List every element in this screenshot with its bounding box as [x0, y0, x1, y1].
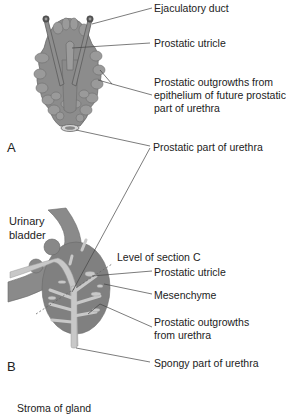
panel-label-b: B	[7, 359, 16, 374]
label-spongy-part-urethra: Spongy part of urethra	[154, 357, 258, 370]
label-urinary-bladder-1: Urinary	[9, 215, 44, 228]
panel-label-a: A	[7, 140, 16, 155]
label-prostatic-utricle-b: Prostatic utricle	[154, 266, 226, 279]
prostate-gland-illustration	[34, 16, 105, 132]
label-outgrowths-b-2: from urethra	[154, 329, 211, 342]
label-outgrowths-a-1: Prostatic outgrowths from	[154, 76, 273, 89]
label-outgrowths-a-3: part of urethra	[154, 102, 220, 115]
label-level-section-c: Level of section C	[117, 251, 200, 264]
label-outgrowths-a-2: epithelium of future prostatic	[154, 89, 286, 102]
label-prostatic-utricle-a: Prostatic utricle	[154, 37, 226, 50]
label-mesenchyme: Mesenchyme	[154, 289, 216, 302]
label-stroma-of-gland: Stroma of gland	[17, 402, 91, 415]
label-outgrowths-b-1: Prostatic outgrowths	[154, 316, 249, 329]
label-ejaculatory-duct: Ejaculatory duct	[154, 2, 229, 15]
label-urinary-bladder-2: bladder	[9, 229, 46, 242]
label-prostatic-part-urethra: Prostatic part of urethra	[153, 141, 263, 154]
